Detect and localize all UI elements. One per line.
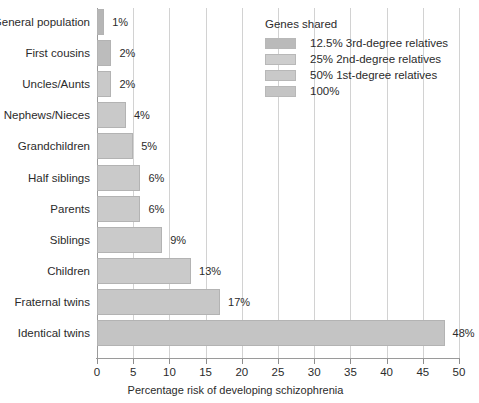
x-axis-tick: [350, 359, 351, 364]
bar: [97, 71, 111, 97]
legend-swatch: [265, 86, 296, 97]
x-axis-tick: [97, 359, 98, 364]
x-axis-tick: [133, 359, 134, 364]
category-label: Uncles/Aunts: [0, 78, 90, 90]
bar-row: 17%: [97, 289, 459, 315]
bar: [97, 289, 220, 315]
x-axis-tick: [423, 359, 424, 364]
x-axis-tick: [169, 359, 170, 364]
legend-item-label: 12.5% 3rd-degree relatives: [310, 37, 448, 49]
bar-value-label: 48%: [453, 327, 475, 339]
legend-title: Genes shared: [265, 18, 464, 30]
legend-item: 25% 2nd-degree relatives: [259, 51, 464, 67]
bar-row: 9%: [97, 227, 459, 253]
x-axis-tick: [278, 359, 279, 364]
bar: [97, 227, 162, 253]
bar: [97, 165, 140, 191]
x-axis-tick-label: 45: [403, 366, 443, 378]
legend-item-label: 100%: [310, 85, 339, 97]
x-axis-tick: [459, 359, 460, 364]
bar-value-label: 2%: [119, 78, 135, 90]
legend-item: 12.5% 3rd-degree relatives: [259, 35, 464, 51]
bar: [97, 258, 191, 284]
x-axis-tick-label: 5: [113, 366, 153, 378]
category-label: General population: [0, 16, 90, 28]
legend-item: 100%: [259, 83, 464, 99]
legend-swatch: [265, 70, 296, 81]
x-axis-tick-label: 30: [294, 366, 334, 378]
category-label: Grandchildren: [0, 140, 90, 152]
bar-value-label: 6%: [148, 172, 164, 184]
bar-row: 6%: [97, 196, 459, 222]
category-label: Fraternal twins: [0, 296, 90, 308]
category-label: Parents: [0, 203, 90, 215]
bar-row: 5%: [97, 133, 459, 159]
x-axis-tick-label: 25: [258, 366, 298, 378]
bar-value-label: 2%: [119, 47, 135, 59]
bar-value-label: 1%: [112, 16, 128, 28]
bar-row: 13%: [97, 258, 459, 284]
x-axis-tick-label: 35: [330, 366, 370, 378]
legend-item: 50% 1st-degree relatives: [259, 67, 464, 83]
category-label: First cousins: [0, 47, 90, 59]
bar: [97, 40, 111, 66]
bar-value-label: 9%: [170, 234, 186, 246]
x-axis-tick: [242, 359, 243, 364]
x-axis-tick-label: 15: [186, 366, 226, 378]
category-label: Identical twins: [0, 327, 90, 339]
legend-item-label: 50% 1st-degree relatives: [310, 69, 437, 81]
x-axis-tick-label: 50: [439, 366, 479, 378]
x-axis-tick: [206, 359, 207, 364]
x-axis-tick-label: 10: [149, 366, 189, 378]
x-axis-tick-label: 20: [222, 366, 262, 378]
legend-swatch: [265, 54, 296, 65]
category-label: Nephews/Nieces: [0, 109, 90, 121]
x-axis-tick: [314, 359, 315, 364]
category-label: Siblings: [0, 234, 90, 246]
bar: [97, 196, 140, 222]
bar: [97, 102, 126, 128]
bar: [97, 320, 445, 346]
bar-value-label: 17%: [228, 296, 250, 308]
bar: [97, 133, 133, 159]
bar-value-label: 6%: [148, 203, 164, 215]
bar-row: 6%: [97, 165, 459, 191]
bar-value-label: 13%: [199, 265, 221, 277]
legend-entries: 12.5% 3rd-degree relatives25% 2nd-degree…: [259, 35, 464, 99]
legend-item-label: 25% 2nd-degree relatives: [310, 53, 441, 65]
bar-value-label: 4%: [134, 109, 150, 121]
x-axis-tick: [387, 359, 388, 364]
legend-swatch: [265, 38, 296, 49]
x-axis-tick-label: 0: [77, 366, 117, 378]
bar-value-label: 5%: [141, 140, 157, 152]
category-label: Half siblings: [0, 172, 90, 184]
bar: [97, 9, 104, 35]
bar-row: 4%: [97, 102, 459, 128]
category-label: Children: [0, 265, 90, 277]
bar-row: 48%: [97, 320, 459, 346]
x-axis-title: Percentage risk of developing schizophre…: [0, 384, 471, 396]
legend: Genes shared 12.5% 3rd-degree relatives2…: [259, 18, 464, 99]
x-axis-tick-label: 40: [367, 366, 407, 378]
